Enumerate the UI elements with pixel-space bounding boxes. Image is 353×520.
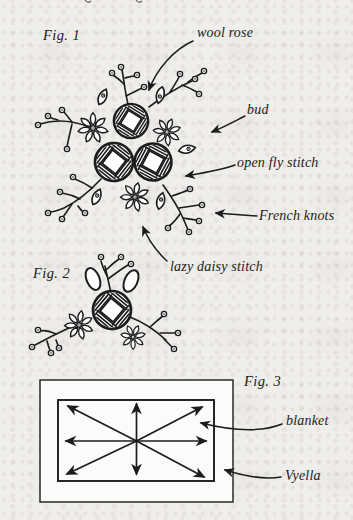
- label-wool-rose: wool rose: [197, 25, 253, 40]
- label-blanket: blanket: [286, 413, 329, 428]
- french-knots-arrow: [216, 213, 257, 216]
- fig1-drawing: [35, 64, 206, 234]
- fig1-caption: Fig. 1: [43, 28, 80, 44]
- wool-rose-arrow: [149, 41, 193, 90]
- label-french-knots: French knots: [259, 208, 334, 223]
- cropped-text-remnant: [85, 0, 142, 2]
- lazy-daisy-arrow: [143, 227, 167, 261]
- fig3-caption: Fig. 3: [244, 374, 281, 390]
- label-bud: bud: [247, 102, 269, 117]
- fig1-wool-roses: [87, 97, 178, 188]
- fig3-drawing: [40, 380, 233, 502]
- fig2-caption: Fig. 2: [33, 266, 70, 282]
- label-lazy-daisy-stitch: lazy daisy stitch: [170, 259, 263, 274]
- bud-arrow: [212, 116, 245, 132]
- scanned-diagram-page: Fig. 1 wool rose bud open fly stitch Fre…: [0, 0, 353, 520]
- label-vyella: Vyella: [285, 468, 321, 483]
- label-open-fly-stitch: open fly stitch: [237, 155, 319, 170]
- open-fly-arrow: [186, 165, 235, 176]
